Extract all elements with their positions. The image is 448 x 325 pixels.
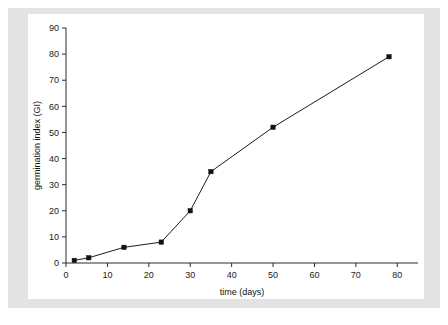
series-line — [74, 57, 389, 261]
x-tick-label: 80 — [392, 270, 402, 280]
x-tick-label: 50 — [268, 270, 278, 280]
y-axis-title: germination index (GI) — [32, 101, 42, 190]
y-tick-label: 10 — [49, 232, 59, 242]
y-tick-label: 70 — [49, 75, 59, 85]
data-point-marker — [87, 256, 91, 260]
x-axis-title: time (days) — [220, 287, 265, 297]
y-tick-label: 30 — [49, 180, 59, 190]
plot-canvas: 01020304050607080 0102030405060708090 ti… — [28, 14, 424, 299]
figure-mat: 01020304050607080 0102030405060708090 ti… — [8, 8, 440, 308]
line-chart: 01020304050607080 0102030405060708090 ti… — [28, 14, 424, 299]
data-point-marker — [122, 245, 126, 249]
data-point-marker — [271, 125, 275, 129]
y-axis-ticks: 0102030405060708090 — [49, 23, 66, 268]
data-point-marker — [159, 240, 163, 244]
y-tick-label: 80 — [49, 49, 59, 59]
y-tick-label: 50 — [49, 128, 59, 138]
x-tick-label: 0 — [63, 270, 68, 280]
x-tick-label: 30 — [185, 270, 195, 280]
x-tick-label: 40 — [227, 270, 237, 280]
data-point-marker — [209, 169, 213, 173]
y-tick-label: 90 — [49, 23, 59, 33]
y-tick-label: 40 — [49, 154, 59, 164]
caption-fragment — [10, 313, 438, 323]
data-series — [72, 55, 391, 263]
x-tick-label: 70 — [351, 270, 361, 280]
y-tick-label: 0 — [54, 258, 59, 268]
y-tick-label: 60 — [49, 102, 59, 112]
data-point-marker — [72, 258, 76, 262]
data-point-marker — [387, 55, 391, 59]
x-tick-label: 20 — [144, 270, 154, 280]
x-axis-ticks: 01020304050607080 — [63, 263, 402, 280]
x-tick-label: 10 — [102, 270, 112, 280]
figure: 01020304050607080 0102030405060708090 ti… — [0, 0, 448, 325]
x-tick-label: 60 — [309, 270, 319, 280]
y-tick-label: 20 — [49, 206, 59, 216]
axes — [66, 28, 418, 263]
data-point-marker — [188, 209, 192, 213]
